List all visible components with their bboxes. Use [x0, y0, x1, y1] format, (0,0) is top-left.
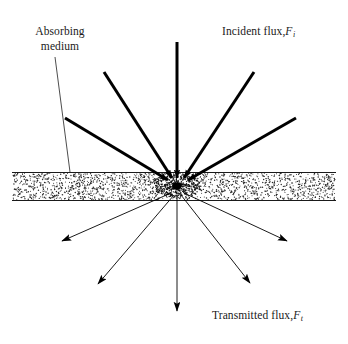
incident-flux-subscript: i — [292, 30, 295, 39]
incident-flux-text: Incident flux, — [222, 25, 285, 37]
transmitted-4 — [181, 195, 250, 283]
transmitted-rays-group — [62, 193, 287, 311]
incident-flux-label: Incident flux,Fi — [222, 24, 295, 40]
absorbing-medium-label-line2: medium — [12, 39, 108, 54]
absorbing-medium-label-line1: Absorbing — [12, 24, 108, 39]
absorption-diagram-figure: Absorbing medium Incident flux,Fi Transm… — [0, 0, 348, 344]
absorbing-medium-leader — [55, 57, 70, 172]
absorbing-medium-label: Absorbing medium — [12, 24, 108, 53]
incident-rays-group — [65, 42, 296, 180]
transmitted-flux-subscript: t — [300, 314, 303, 323]
transmitted-flux-label: Transmitted flux,Ft — [212, 308, 303, 324]
absorbing-medium-leader — [55, 57, 70, 172]
transmitted-flux-text: Transmitted flux, — [212, 309, 293, 321]
